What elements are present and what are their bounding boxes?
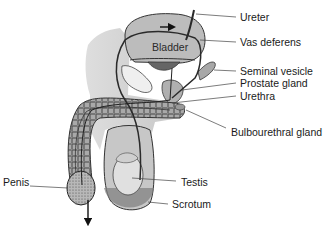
bladder-label: Bladder xyxy=(152,42,188,53)
scrotum-shape xyxy=(104,126,154,210)
label-urethra: Urethra xyxy=(240,91,275,102)
label-bulbourethral-gland: Bulbourethral gland xyxy=(231,127,322,138)
label-penis: Penis xyxy=(3,177,29,188)
label-vas-deferens: Vas deferens xyxy=(240,37,301,48)
label-testis: Testis xyxy=(181,177,208,188)
label-prostate-gland: Prostate gland xyxy=(240,78,308,89)
label-seminal-vesicle: Seminal vesicle xyxy=(240,66,313,77)
bulbourethral-gland-shape xyxy=(175,104,185,110)
label-scrotum: Scrotum xyxy=(172,199,211,210)
seminal-vesicle-shape xyxy=(198,62,215,80)
label-ureter: Ureter xyxy=(240,12,269,23)
